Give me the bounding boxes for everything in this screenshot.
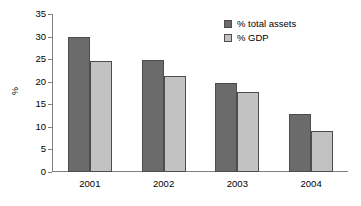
y-tick-label: 30: [22, 32, 46, 42]
bar-group: [68, 14, 112, 172]
bar: [237, 92, 259, 172]
y-tick-mark: [48, 59, 52, 60]
x-tick-label: 2002: [127, 178, 201, 189]
bar-chart: % 35302520151050 2001200220032004 % tota…: [0, 0, 361, 206]
y-tick-mark: [48, 37, 52, 38]
x-tick-label: 2001: [53, 178, 127, 189]
y-tick-label: 20: [22, 77, 46, 87]
y-tick-label: 35: [22, 9, 46, 19]
legend-label: % total assets: [237, 18, 296, 29]
y-tick-label: 25: [22, 54, 46, 64]
legend-swatch-icon: [224, 20, 232, 28]
bar: [90, 61, 112, 172]
chart-legend: % total assets% GDP: [224, 17, 296, 45]
y-tick-mark: [48, 82, 52, 83]
legend-item: % total assets: [224, 17, 296, 30]
legend-label: % GDP: [237, 32, 269, 43]
x-tick-label: 2003: [201, 178, 275, 189]
y-tick-label: 0: [22, 167, 46, 177]
y-axis-title: %: [10, 81, 20, 101]
x-tick-label: 2004: [274, 178, 348, 189]
bar: [215, 83, 237, 172]
bar: [311, 131, 333, 172]
bar-group: [142, 14, 186, 172]
legend-item: % GDP: [224, 31, 296, 44]
legend-swatch-icon: [224, 34, 232, 42]
y-tick-label: 5: [22, 144, 46, 154]
y-tick-mark: [48, 14, 52, 15]
y-tick-mark: [48, 149, 52, 150]
y-tick-mark: [48, 127, 52, 128]
bar: [68, 37, 90, 172]
y-tick-mark: [48, 172, 52, 173]
bars-layer: [53, 14, 348, 172]
y-tick-label: 10: [22, 122, 46, 132]
y-tick-mark: [48, 104, 52, 105]
bar: [164, 76, 186, 172]
y-tick-label: 15: [22, 99, 46, 109]
bar: [142, 60, 164, 172]
bar: [289, 114, 311, 172]
